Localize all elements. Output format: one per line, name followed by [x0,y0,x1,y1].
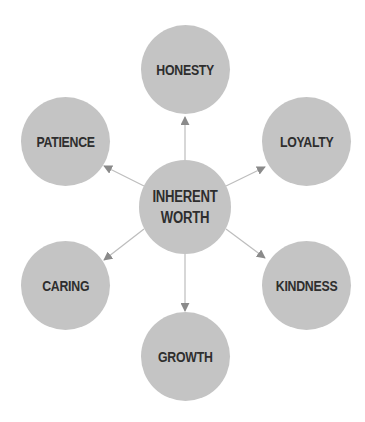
node-honesty: HONESTY [141,25,230,114]
node-growth: GROWTH [141,312,230,401]
node-label: KINDNESS [276,276,338,295]
connector-loyalty [226,167,265,186]
values-diagram: INHERENT WORTH HONESTY LOYALTY KINDNESS … [0,0,365,422]
node-label: PATIENCE [36,132,94,151]
node-kindness: KINDNESS [262,241,351,330]
node-label: CARING [42,276,89,295]
center-label-line1: INHERENT [147,186,222,207]
node-label: GROWTH [158,347,213,366]
node-caring: CARING [21,241,110,330]
center-label-line2: WORTH [147,207,222,228]
node-loyalty: LOYALTY [262,97,351,186]
connector-patience [104,166,144,186]
connector-kindness [226,229,265,258]
node-label: INHERENT WORTH [147,186,222,228]
node-label: HONESTY [157,60,215,79]
node-label: LOYALTY [280,132,334,151]
connector-caring [104,229,144,260]
node-inherent-worth: INHERENT WORTH [139,160,231,254]
node-patience: PATIENCE [21,97,110,186]
